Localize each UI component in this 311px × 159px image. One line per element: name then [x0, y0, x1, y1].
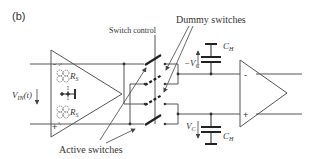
vc-neg-label: −VC	[184, 51, 201, 69]
svg-text:VC: VC	[186, 121, 197, 132]
vin-label: VIN(t)	[12, 89, 37, 104]
hold-wires	[165, 64, 240, 124]
switch-control-label: Switch control	[109, 26, 157, 35]
vc-pos-label: VC	[186, 121, 198, 138]
output-wires	[256, 74, 302, 114]
dummy-switches-label: Dummy switches	[176, 14, 246, 25]
right-amp-plus: +	[243, 110, 248, 120]
svg-text:VIN(t): VIN(t)	[12, 90, 32, 101]
hold-junctions	[177, 73, 213, 116]
input-wires	[30, 64, 51, 124]
panel-label: (b)	[12, 10, 25, 22]
rs-bottom-label: RS	[69, 107, 79, 118]
switch-array-wires	[51, 35, 155, 124]
ch-top-label: CH	[223, 41, 234, 52]
hold-capacitor-bottom	[201, 114, 221, 144]
common-mode-node	[61, 86, 75, 101]
dummy-switches	[145, 75, 162, 105]
hold-capacitor-top	[201, 44, 221, 74]
ch-bottom-label: CH	[223, 131, 234, 142]
circuit-diagram: (b) VIN(t) - + RS RS	[0, 0, 311, 159]
active-switches-label: Active switches	[59, 144, 123, 155]
right-amp-minus: -	[244, 70, 247, 80]
active-switches	[145, 55, 161, 125]
rs-top-label: RS	[69, 71, 79, 82]
